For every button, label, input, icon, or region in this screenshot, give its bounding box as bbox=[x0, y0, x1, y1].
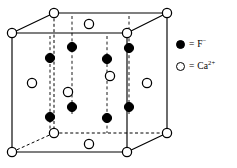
calcium-ion-face-center-bottom bbox=[84, 139, 93, 148]
fluoride-ion bbox=[124, 43, 133, 52]
calcium-ion-face-center-top bbox=[84, 19, 93, 28]
calcium-ion-group bbox=[7, 8, 171, 156]
edge-bottom-right-diagonal bbox=[127, 133, 167, 152]
calcium-ion-corner bbox=[122, 147, 131, 156]
calcium-ion-face-center-back bbox=[105, 71, 114, 80]
legend-label-fluoride: = F− bbox=[189, 40, 207, 50]
edge-top-right-diagonal bbox=[127, 13, 167, 33]
open-circle-icon bbox=[176, 62, 185, 71]
fluoride-ion bbox=[102, 113, 111, 122]
legend-charge-calcium: 2+ bbox=[208, 59, 215, 66]
calcium-ion-corner bbox=[122, 28, 131, 37]
fluoride-ion bbox=[67, 102, 76, 111]
legend-item-calcium: = Ca2+ bbox=[176, 62, 215, 72]
calcium-ion-corner bbox=[49, 128, 58, 137]
calcium-ion-corner bbox=[49, 8, 58, 17]
edge-bottom-left-diagonal bbox=[12, 133, 54, 152]
calcium-ion-corner bbox=[162, 8, 171, 17]
fluoride-ion bbox=[45, 112, 54, 121]
fluoride-ion bbox=[124, 102, 133, 111]
fluoride-ion bbox=[45, 53, 54, 62]
calcium-ion-face-center-front bbox=[63, 87, 72, 96]
legend-label-calcium: = Ca2+ bbox=[189, 62, 215, 72]
legend-equals-calcium: = bbox=[189, 61, 195, 71]
calcium-ion-corner bbox=[7, 28, 16, 37]
edge-top-left-diagonal bbox=[12, 13, 54, 33]
legend-species-calcium: Ca bbox=[197, 61, 208, 71]
calcium-ion-face-center-left bbox=[27, 78, 36, 87]
calcium-ion-corner bbox=[7, 147, 16, 156]
legend-charge-fluoride: − bbox=[203, 37, 207, 44]
fluoride-ion bbox=[102, 54, 111, 63]
legend-equals-fluoride: = bbox=[189, 39, 195, 49]
filled-circle-icon bbox=[176, 40, 185, 49]
calcium-ion-face-center-right bbox=[142, 78, 151, 87]
calcium-ion-corner bbox=[162, 128, 171, 137]
unit-cell-diagram bbox=[0, 0, 237, 168]
legend-item-fluoride: = F− bbox=[176, 40, 207, 50]
fluoride-ion bbox=[67, 42, 76, 51]
crystal-structure-figure: = F− = Ca2+ bbox=[0, 0, 237, 168]
fluoride-ion-group bbox=[45, 42, 133, 122]
